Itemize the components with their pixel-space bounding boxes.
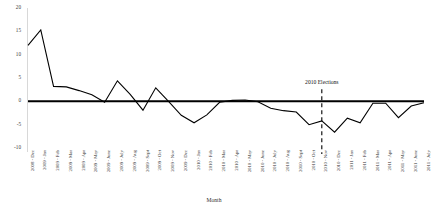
x-axis-tick-labels: 2008 - Dec2009 - Jan2009 - Feb2009 - Mar… (28, 150, 424, 195)
x-tick-label: 2011 - May (400, 150, 405, 172)
x-tick-label: 2011 - July (426, 150, 431, 171)
x-tick-label: 2009 - Jan (42, 150, 47, 170)
data-series-line (28, 30, 424, 132)
y-tick-label: 20 (16, 5, 21, 10)
x-tick-label: 2009 - Dec (183, 150, 188, 171)
x-tick-label: 2009 - Feb (55, 150, 60, 171)
y-tick-label: -5 (17, 122, 21, 127)
x-tick-label: 2009 - Sept (145, 150, 150, 172)
x-tick-label: 2010 - Nov (323, 150, 328, 172)
x-tick-label: 2011 - Jan (349, 150, 354, 170)
x-tick-label: 2009 - Oct (157, 150, 162, 170)
x-tick-label: 2010 - Oct (311, 150, 316, 170)
chart-svg (28, 8, 424, 148)
x-tick-label: 2009 - July (119, 150, 124, 171)
x-tick-label: 2010 - Jan (196, 150, 201, 170)
plot-area (28, 8, 424, 148)
y-tick-label: 10 (16, 52, 21, 57)
x-tick-label: 2010 - June (260, 150, 265, 172)
x-tick-label: 2011 - June (413, 150, 418, 172)
x-tick-label: 2009 - June (106, 150, 111, 172)
x-tick-label: 2010 - Feb (208, 150, 213, 171)
x-tick-label: 2011 - Feb (362, 150, 367, 171)
x-tick-label: 2011 - Apr (387, 150, 392, 171)
x-tick-label: 2009 - Mar (68, 150, 73, 172)
y-axis-tick-labels: 20151050-5-10 (0, 8, 24, 148)
x-tick-label: 2009 - Nov (170, 150, 175, 172)
x-tick-label: 2010 - Aug (285, 150, 290, 172)
x-tick-label: 2010 - July (272, 150, 277, 171)
y-tick-label: 5 (18, 75, 21, 80)
x-tick-label: 2010 - Dec (336, 150, 341, 171)
x-tick-label: 2010 - Sept (298, 150, 303, 172)
x-tick-label: 2008 - Dec (30, 150, 35, 171)
x-tick-label: 2009 - May (93, 150, 98, 172)
y-tick-label: 15 (16, 29, 21, 34)
y-tick-label: -10 (14, 145, 21, 150)
election-annotation-label: 2010 Elections (282, 79, 362, 85)
x-tick-label: 2009 - Apr (81, 150, 86, 171)
y-tick-label: 0 (18, 99, 21, 104)
x-tick-label: 2010 - May (247, 150, 252, 172)
x-axis-title: Month (0, 197, 428, 203)
x-tick-label: 2011 - Mar (375, 150, 380, 171)
x-tick-label: 2010 - Mar (221, 150, 226, 172)
x-tick-label: 2010 - Apr (234, 150, 239, 171)
x-tick-label: 2009 - Aug (132, 150, 137, 172)
